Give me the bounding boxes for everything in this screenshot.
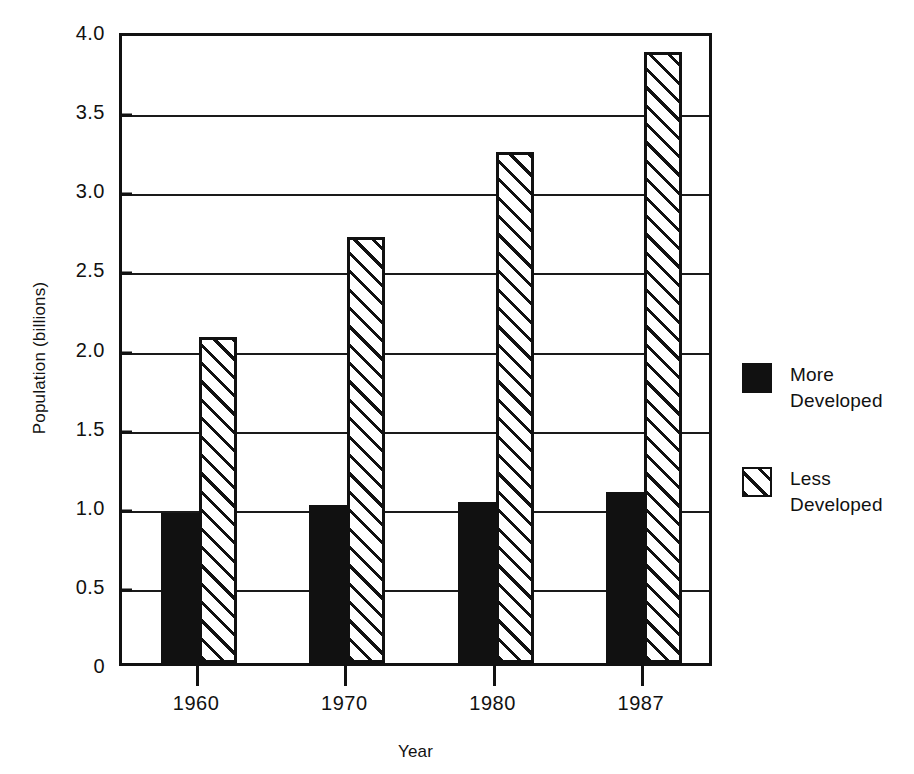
bar-more-developed-1980: [458, 502, 496, 663]
x-axis-title: Year: [119, 742, 712, 762]
x-axis-tick-label: 1970: [284, 692, 404, 715]
bar-less-developed-1987: [644, 52, 682, 663]
y-axis-tick-label: 0: [35, 655, 105, 678]
legend-label-more-developed: More Developed: [790, 362, 883, 414]
bar-more-developed-1987: [606, 492, 644, 663]
y-axis-tick-label: 0.5: [35, 575, 105, 598]
bar-less-developed-1980: [496, 152, 534, 663]
gridline: [122, 115, 709, 117]
y-axis-tick-label: 2.5: [35, 259, 105, 282]
bar-less-developed-1970: [347, 237, 385, 663]
y-axis-tick-mark: [122, 272, 132, 275]
legend-swatch-more-developed-icon: [742, 363, 772, 393]
y-axis-tick-label: 2.0: [35, 338, 105, 361]
x-axis-tick-label: 1980: [433, 692, 553, 715]
legend-item-more-developed[interactable]: More Developed: [742, 362, 912, 414]
y-axis-tick-label: 3.5: [35, 101, 105, 124]
gridline: [122, 194, 709, 196]
legend-swatch-less-developed-icon: [742, 467, 772, 497]
x-axis-tick-mark: [641, 666, 644, 686]
y-axis-tick-label: 1.0: [35, 496, 105, 519]
y-axis-tick-mark: [122, 430, 132, 433]
legend-label-less-developed-line1: Less: [790, 466, 883, 492]
legend-label-more-developed-line2: Developed: [790, 388, 883, 414]
x-axis-tick-mark: [344, 666, 347, 686]
y-axis-tick-label: 4.0: [35, 22, 105, 45]
bar-less-developed-1960: [199, 337, 237, 663]
chart-legend: More Developed Less Developed: [742, 362, 912, 570]
legend-label-less-developed: Less Developed: [790, 466, 883, 518]
legend-item-less-developed[interactable]: Less Developed: [742, 466, 912, 518]
bar-more-developed-1960: [161, 513, 199, 663]
gridline: [122, 273, 709, 275]
x-axis-tick-label: 1960: [136, 692, 256, 715]
legend-label-less-developed-line2: Developed: [790, 492, 883, 518]
x-axis-tick-label: 1987: [581, 692, 701, 715]
legend-label-more-developed-line1: More: [790, 362, 883, 388]
x-axis-tick-mark: [196, 666, 199, 686]
y-axis-tick-label: 3.0: [35, 180, 105, 203]
bar-more-developed-1970: [309, 505, 347, 663]
plot-area: [119, 33, 712, 666]
y-axis-tick-mark: [122, 509, 132, 512]
y-axis-tick-mark: [122, 114, 132, 117]
x-axis-tick-mark: [493, 666, 496, 686]
population-bar-chart: Population (billions) 00.51.01.52.02.53.…: [0, 0, 914, 774]
y-axis-tick-mark: [122, 588, 132, 591]
y-axis-tick-mark: [122, 351, 132, 354]
y-axis-tick-mark: [122, 193, 132, 196]
y-axis-tick-label: 1.5: [35, 417, 105, 440]
